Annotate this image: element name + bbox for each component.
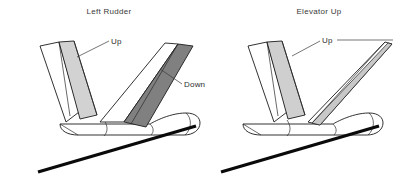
right-up-leader-line-left [292, 41, 320, 56]
control-surface-diagram: Left Rudder Elevator Up Up Down Up [0, 0, 409, 192]
right-horizontal-stabilizer [308, 42, 392, 125]
left-up-leader-line [77, 41, 109, 57]
left-panel-artwork [0, 0, 409, 192]
panel-title-elevator-up: Elevator Up [284, 7, 354, 16]
panel-title-left-rudder: Left Rudder [74, 7, 144, 16]
callout-label-left-up: Up [111, 37, 122, 46]
callout-label-left-down: Down [184, 80, 205, 89]
callout-label-right-up: Up [322, 36, 333, 45]
right-elevator-surface [312, 43, 392, 125]
